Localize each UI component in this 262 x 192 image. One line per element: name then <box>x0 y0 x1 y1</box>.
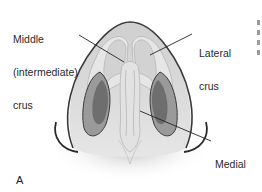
nasal-tip-cartilage-diagram: Middle (intermediate) crus Lateral crus … <box>0 0 262 192</box>
panel-label: A <box>16 174 23 186</box>
middle-crus-label-line1: Middle <box>13 34 78 45</box>
cropped-text-fragment <box>257 20 260 25</box>
lateral-crus-label-line2: crus <box>199 81 231 92</box>
lateral-crus-label: Lateral crus <box>199 26 231 114</box>
middle-crus-label: Middle (intermediate) crus <box>13 12 78 133</box>
lateral-crus-label-line1: Lateral <box>199 48 231 59</box>
cropped-text-fragment <box>257 50 260 55</box>
middle-crus-label-line2: (intermediate) <box>13 67 78 78</box>
columella <box>120 62 140 153</box>
cropped-text-fragment <box>257 40 260 45</box>
medial-crus-label-line1: Medial <box>215 159 246 170</box>
middle-crus-label-line3: crus <box>13 100 78 111</box>
cropped-text-fragment <box>257 30 260 35</box>
medial-crus-label: Medial crus <box>215 137 246 192</box>
